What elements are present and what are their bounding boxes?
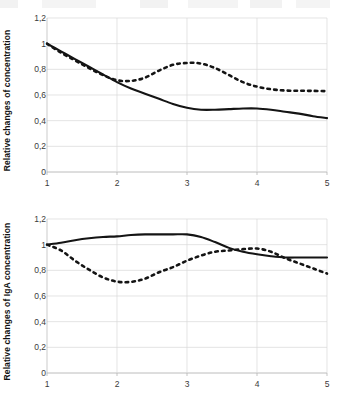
chart-top-x-tick-label: 5 bbox=[317, 178, 337, 188]
chart-bottom-x-tick-label: 1 bbox=[37, 379, 57, 389]
chart-top: Relative changes of concentration 00,20,… bbox=[0, 0, 340, 201]
chart-bottom-x-tick-label: 5 bbox=[317, 379, 337, 389]
chart-bottom: Relative changes of IgA concentration 00… bbox=[0, 201, 340, 402]
chart-bottom-x-tick-label: 3 bbox=[177, 379, 197, 389]
chart-bottom-x-ticks: 12345 bbox=[0, 201, 340, 402]
chart-top-x-tick-label: 2 bbox=[107, 178, 127, 188]
chart-top-x-tick-label: 3 bbox=[177, 178, 197, 188]
chart-top-x-tick-label: 4 bbox=[247, 178, 267, 188]
chart-bottom-x-tick-label: 2 bbox=[107, 379, 127, 389]
chart-top-x-tick-label: 1 bbox=[37, 178, 57, 188]
chart-top-x-ticks: 12345 bbox=[0, 0, 340, 201]
chart-bottom-x-tick-label: 4 bbox=[247, 379, 267, 389]
